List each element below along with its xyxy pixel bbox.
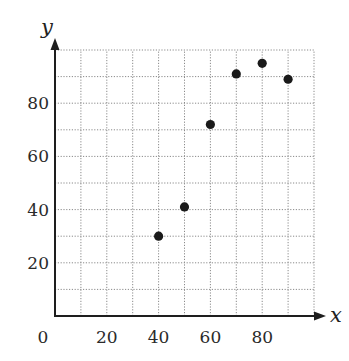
data-point bbox=[284, 75, 293, 84]
grid bbox=[55, 50, 314, 316]
x-tick-label: 40 bbox=[148, 327, 170, 347]
x-tick-label: 20 bbox=[96, 327, 118, 347]
y-tick-label: 60 bbox=[27, 146, 49, 166]
y-tick-label: 80 bbox=[27, 93, 49, 113]
y-tick-labels: 20406080 bbox=[27, 93, 49, 273]
x-tick-label: 60 bbox=[200, 327, 222, 347]
y-tick-label: 40 bbox=[27, 200, 49, 220]
data-point bbox=[180, 202, 189, 211]
y-axis-arrow-icon bbox=[51, 38, 60, 50]
y-tick-label: 20 bbox=[27, 253, 49, 273]
data-points bbox=[154, 59, 293, 241]
data-point bbox=[154, 232, 163, 241]
x-tick-labels: 020406080 bbox=[38, 327, 273, 347]
x-tick-label: 80 bbox=[251, 327, 273, 347]
data-point bbox=[206, 120, 215, 129]
scatter-chart: 020406080 20406080 x y bbox=[0, 0, 349, 361]
x-axis-arrow-icon bbox=[314, 312, 326, 321]
y-axis-label: y bbox=[40, 15, 54, 39]
x-tick-label: 0 bbox=[38, 327, 49, 347]
data-point bbox=[232, 69, 241, 78]
data-point bbox=[258, 59, 267, 68]
x-axis-label: x bbox=[330, 303, 342, 327]
